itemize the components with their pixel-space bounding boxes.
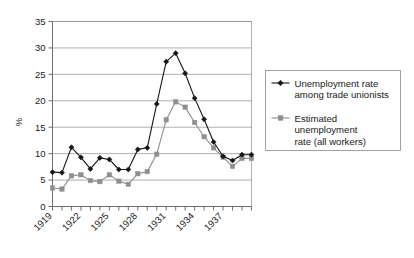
data-point-marker	[135, 147, 140, 152]
data-point-marker	[107, 173, 111, 177]
data-point-marker	[50, 186, 54, 190]
y-axis-tick-labels: 05101520253035	[35, 16, 46, 212]
data-point-marker	[154, 101, 159, 106]
data-point-marker	[202, 135, 206, 139]
data-point-marker	[145, 145, 150, 150]
data-point-marker	[59, 170, 64, 175]
legend-label: unemployment	[295, 124, 358, 135]
x-tick-label: 1919	[31, 210, 54, 233]
data-point-marker	[136, 172, 140, 176]
x-tick-label: 1934	[173, 210, 196, 233]
y-tick-label: 25	[35, 69, 46, 80]
data-point-marker	[145, 169, 149, 173]
x-tick-label: 1931	[145, 210, 168, 233]
data-point-marker	[202, 117, 207, 122]
y-axis-ticks	[49, 22, 53, 207]
data-point-marker	[173, 100, 177, 104]
x-tick-label: 1928	[116, 210, 139, 233]
x-tick-label: 1937	[202, 210, 225, 233]
data-point-marker	[183, 71, 188, 76]
x-tick-label: 1922	[60, 210, 83, 233]
x-axis-tick-labels: 1919192219251928193119341937	[31, 210, 224, 233]
y-tick-label: 10	[35, 148, 46, 159]
legend-label: Unemployment rate	[295, 78, 379, 89]
data-point-marker	[192, 96, 197, 101]
data-point-marker	[126, 167, 131, 172]
y-axis-title: %	[13, 117, 24, 126]
data-point-marker	[230, 164, 234, 168]
series-line	[53, 53, 252, 172]
series-group	[50, 51, 254, 176]
data-point-marker	[183, 105, 187, 109]
y-tick-label: 20	[35, 95, 46, 106]
x-tick-label: 1925	[88, 210, 111, 233]
legend-label: among trade unionists	[295, 89, 390, 100]
y-axis-title-text: %	[13, 117, 24, 126]
data-point-marker	[192, 120, 196, 124]
y-tick-label: 5	[40, 174, 45, 185]
y-tick-label: 15	[35, 122, 46, 133]
data-point-marker	[211, 146, 215, 150]
data-point-marker	[88, 178, 92, 182]
data-point-marker	[126, 182, 130, 186]
legend-label: Estimated	[295, 113, 338, 124]
chart-legend: Unemployment rateamong trade unionistsEs…	[266, 71, 401, 151]
series-group	[50, 100, 253, 192]
plot-frame	[53, 22, 252, 207]
data-point-marker	[98, 179, 102, 183]
data-point-marker	[50, 170, 55, 175]
x-axis-ticks	[53, 207, 252, 211]
data-point-marker	[79, 173, 83, 177]
legend-swatch-marker	[278, 116, 283, 121]
legend-label: rate (all workers)	[295, 136, 366, 147]
data-point-marker	[69, 174, 73, 178]
y-tick-label: 30	[35, 42, 46, 53]
data-point-marker	[117, 179, 121, 183]
data-point-marker	[60, 187, 64, 191]
chart-container: 05101520253035 1919192219251928193119341…	[0, 0, 414, 258]
data-point-marker	[164, 118, 168, 122]
line-chart: 05101520253035 1919192219251928193119341…	[0, 0, 414, 258]
data-series-layer	[50, 51, 254, 192]
data-point-marker	[155, 152, 159, 156]
y-tick-label: 35	[35, 16, 46, 27]
data-point-marker	[230, 158, 235, 163]
